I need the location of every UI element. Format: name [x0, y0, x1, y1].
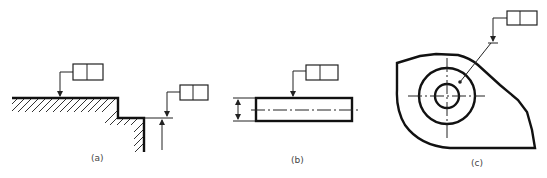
leader-line — [493, 18, 507, 41]
section-hatching — [2, 98, 158, 159]
leader-dot — [458, 80, 462, 84]
panel-caption: (b) — [291, 155, 304, 165]
feature-control-frame — [73, 64, 103, 80]
feature-control-frame — [306, 65, 338, 80]
panel-c: (c) — [397, 11, 537, 168]
panel-a: (a) — [2, 64, 208, 163]
panel-b: (b) — [233, 65, 358, 165]
leader-line — [293, 71, 306, 96]
panel-caption: (c) — [471, 158, 483, 168]
feature-control-frame — [507, 11, 537, 25]
panel-caption: (a) — [91, 153, 104, 163]
engineering-drawing-figure: (a) (b) — [0, 0, 547, 178]
feature-control-frame — [180, 85, 208, 100]
leader-line — [60, 72, 73, 96]
leader-line — [167, 92, 180, 116]
plate-outline — [397, 54, 535, 148]
leader-diagonal — [460, 43, 491, 82]
